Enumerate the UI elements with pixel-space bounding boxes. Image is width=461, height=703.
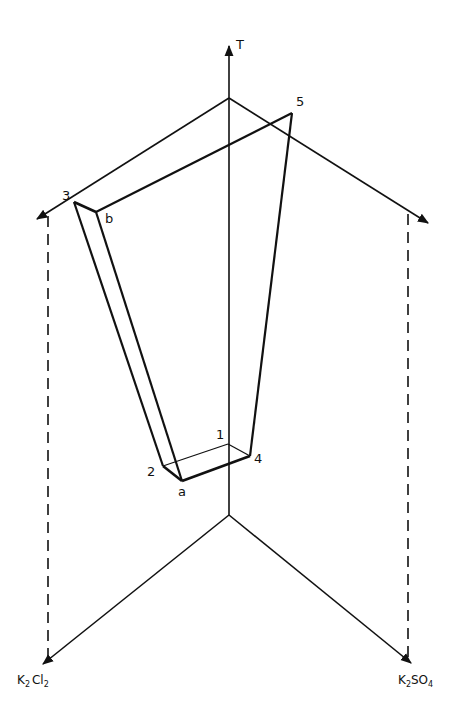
point-label-4: 4 (254, 451, 262, 466)
bottom-right-arm (229, 515, 411, 663)
temperature-axis-label: T (235, 37, 244, 52)
top-right-arm (229, 98, 428, 223)
phase-diagram: T 3 b 5 1 2 4 a K2Cl2 K2SO4 (0, 0, 461, 703)
edge-3-2 (74, 202, 163, 466)
point-label-5: 5 (296, 94, 304, 109)
component-label-k2so4: K2SO4 (398, 673, 433, 689)
point-label-2: 2 (147, 464, 155, 479)
edge-5-4 (250, 113, 292, 456)
point-label-b: b (105, 211, 113, 226)
edge-1-4 (228, 444, 250, 456)
point-label-3: 3 (62, 188, 70, 203)
point-label-1: 1 (216, 427, 224, 442)
edge-b-a (96, 212, 182, 481)
phase-volume (74, 113, 292, 481)
edge-a-4 (182, 456, 250, 481)
bottom-left-arm (43, 515, 229, 664)
point-label-a: a (178, 484, 186, 499)
component-label-k2cl2: K2Cl2 (17, 673, 49, 689)
